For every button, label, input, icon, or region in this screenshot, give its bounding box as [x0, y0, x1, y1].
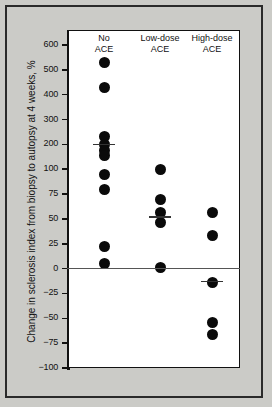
y-axis-tick-label: 300	[14, 114, 58, 124]
y-axis-tick-label: −50	[14, 312, 58, 322]
y-axis-tick-label: 50	[14, 213, 58, 223]
y-axis-tick-label: 0	[14, 263, 58, 273]
y-axis-tick-label: −75	[14, 337, 58, 347]
figure: Change in sclerosis index from biopsy to…	[0, 0, 272, 407]
data-point	[207, 329, 218, 340]
data-point	[207, 317, 218, 328]
median-marker	[149, 216, 171, 218]
y-axis-tick-label: 25	[14, 238, 58, 248]
y-axis-tick-label: 600	[14, 39, 58, 49]
data-point	[99, 57, 110, 68]
data-point	[207, 230, 218, 241]
y-axis-tick-label: 100	[14, 163, 58, 173]
data-point	[207, 277, 218, 288]
data-point	[99, 241, 110, 252]
column-header-line: ACE	[172, 44, 252, 55]
column-header-3: High-doseACE	[172, 33, 252, 54]
data-point	[99, 150, 110, 161]
median-marker	[201, 281, 223, 283]
column-header-line: High-dose	[172, 33, 252, 44]
data-point	[99, 184, 110, 195]
data-point	[155, 164, 166, 175]
y-axis-tick-label: −100	[14, 362, 58, 372]
y-axis-tick-label: −25	[14, 287, 58, 297]
data-point	[155, 194, 166, 205]
median-marker	[93, 144, 115, 146]
data-point	[99, 169, 110, 180]
data-point	[207, 207, 218, 218]
y-axis-tick-label: 400	[14, 89, 58, 99]
y-axis-tick-label: 500	[14, 64, 58, 74]
y-axis-tick-label: 200	[14, 138, 58, 148]
data-point	[155, 217, 166, 228]
zero-reference-line	[67, 268, 240, 270]
data-point	[99, 82, 110, 93]
y-axis-tick-label: 75	[14, 188, 58, 198]
